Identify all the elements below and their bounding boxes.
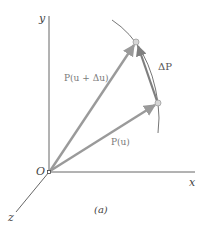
parametric-curve-diagram: y x z O P(u + Δu) P(u) ΔP (a) — [0, 0, 209, 246]
y-axis-label: y — [39, 13, 45, 24]
vector-p-u-plus-delta-u — [50, 45, 134, 171]
point-p-u-plus-delta-u — [133, 39, 139, 45]
vector-label-p-u-plus-delta-u: P(u + Δu) — [64, 74, 108, 83]
vector-p-u — [50, 105, 155, 171]
z-axis-label: z — [8, 212, 14, 223]
vector-delta-p — [138, 46, 157, 101]
x-axis-label: x — [189, 177, 195, 188]
vector-label-delta-p: ΔP — [158, 62, 172, 72]
origin-marker — [48, 171, 51, 174]
origin-label: O — [36, 166, 45, 177]
z-axis — [16, 172, 49, 212]
figure-caption: (a) — [94, 205, 108, 215]
vector-label-p-u: P(u) — [111, 138, 130, 147]
point-p-u — [155, 100, 161, 106]
